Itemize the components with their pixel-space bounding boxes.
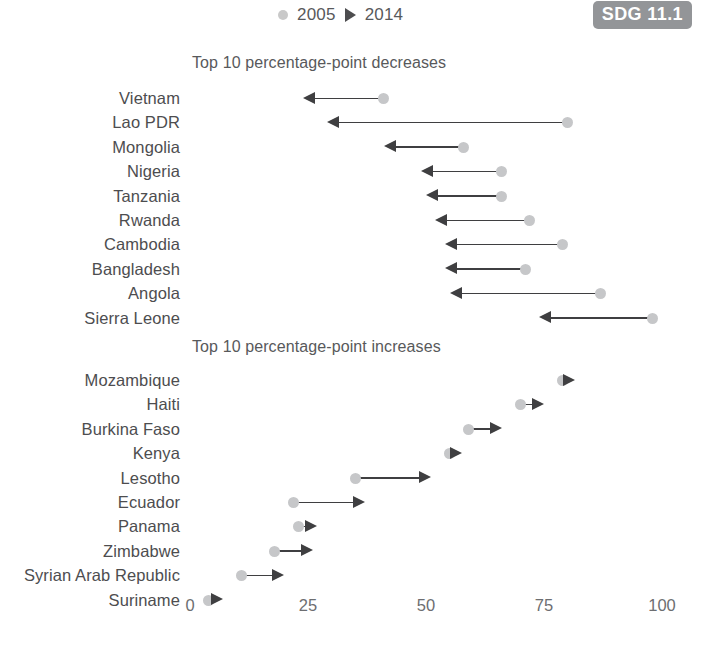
row-track bbox=[0, 466, 701, 490]
row-track bbox=[0, 159, 701, 183]
arrow-shaft bbox=[551, 317, 652, 319]
plot-decreases: VietnamLao PDRMongoliaNigeriaTanzaniaRwa… bbox=[0, 86, 701, 310]
marker-2005 bbox=[269, 546, 280, 557]
arrowhead-2014 bbox=[445, 238, 457, 250]
arrow-shaft bbox=[447, 220, 529, 222]
chart-row: Mozambique bbox=[0, 368, 701, 392]
x-axis: 0255075100 bbox=[0, 596, 701, 626]
legend-item-2014: 2014 bbox=[345, 5, 404, 25]
row-track bbox=[0, 441, 701, 465]
triangle-right-icon bbox=[345, 8, 356, 22]
arrow-shaft bbox=[294, 502, 353, 504]
panel-title-increases: Top 10 percentage-point increases bbox=[192, 338, 441, 356]
chart-row: Nigeria bbox=[0, 159, 701, 183]
arrow-shaft bbox=[462, 293, 601, 295]
arrow-shaft bbox=[433, 171, 501, 173]
marker-2005 bbox=[378, 93, 389, 104]
arrowhead-2014 bbox=[421, 165, 433, 177]
legend-item-2005: 2005 bbox=[278, 5, 336, 25]
row-track bbox=[0, 184, 701, 208]
chart-row: Angola bbox=[0, 281, 701, 305]
arrow-shaft bbox=[396, 146, 464, 148]
marker-2005 bbox=[557, 239, 568, 250]
chart-legend: 2005 2014 bbox=[278, 2, 403, 28]
chart-row: Sierra Leone bbox=[0, 306, 701, 330]
marker-2005 bbox=[647, 313, 658, 324]
row-track bbox=[0, 86, 701, 110]
marker-2005 bbox=[496, 166, 507, 177]
marker-2005 bbox=[350, 473, 361, 484]
marker-2005 bbox=[496, 191, 507, 202]
chart-row: Rwanda bbox=[0, 208, 701, 232]
arrowhead-2014 bbox=[450, 287, 462, 299]
marker-2005 bbox=[463, 424, 474, 435]
row-track bbox=[0, 281, 701, 305]
marker-2005 bbox=[595, 288, 606, 299]
arrow-shaft bbox=[457, 244, 563, 246]
arrow-shaft bbox=[438, 195, 502, 197]
chart-row: Lesotho bbox=[0, 466, 701, 490]
row-track bbox=[0, 490, 701, 514]
row-track bbox=[0, 392, 701, 416]
chart-row: Syrian Arab Republic bbox=[0, 563, 701, 587]
arrowhead-2014 bbox=[450, 447, 462, 459]
arrowhead-2014 bbox=[303, 92, 315, 104]
arrowhead-2014 bbox=[353, 496, 365, 508]
chart-row: Lao PDR bbox=[0, 110, 701, 134]
row-track bbox=[0, 563, 701, 587]
arrowhead-2014 bbox=[445, 262, 457, 274]
chart-row: Panama bbox=[0, 514, 701, 538]
row-track bbox=[0, 514, 701, 538]
chart-row: Ecuador bbox=[0, 490, 701, 514]
marker-2005 bbox=[520, 264, 531, 275]
row-track bbox=[0, 110, 701, 134]
row-track bbox=[0, 368, 701, 392]
arrowhead-2014 bbox=[490, 422, 502, 434]
arrowhead-2014 bbox=[539, 311, 551, 323]
arrowhead-2014 bbox=[532, 398, 544, 410]
row-track bbox=[0, 135, 701, 159]
x-tick-label: 50 bbox=[417, 596, 435, 615]
arrowhead-2014 bbox=[426, 189, 438, 201]
arrowhead-2014 bbox=[435, 214, 447, 226]
x-tick-label: 75 bbox=[535, 596, 553, 615]
plot-increases: MozambiqueHaitiBurkina FasoKenyaLesothoE… bbox=[0, 368, 701, 586]
legend-label-2014: 2014 bbox=[365, 5, 404, 25]
x-tick-label: 25 bbox=[299, 596, 317, 615]
chart-row: Vietnam bbox=[0, 86, 701, 110]
marker-2005 bbox=[288, 497, 299, 508]
chart-row: Mongolia bbox=[0, 135, 701, 159]
row-track bbox=[0, 232, 701, 256]
x-tick-label: 0 bbox=[185, 596, 194, 615]
marker-2005 bbox=[293, 521, 304, 532]
arrowhead-2014 bbox=[305, 520, 317, 532]
marker-2005 bbox=[524, 215, 535, 226]
chart-row: Burkina Faso bbox=[0, 417, 701, 441]
chart-row: Haiti bbox=[0, 392, 701, 416]
arrow-shaft bbox=[457, 268, 525, 270]
row-track bbox=[0, 417, 701, 441]
marker-2005 bbox=[515, 399, 526, 410]
row-track bbox=[0, 208, 701, 232]
arrow-shaft bbox=[339, 122, 568, 124]
arrowhead-2014 bbox=[384, 140, 396, 152]
chart-row: Kenya bbox=[0, 441, 701, 465]
chart-row: Cambodia bbox=[0, 232, 701, 256]
arrowhead-2014 bbox=[419, 471, 431, 483]
arrowhead-2014 bbox=[272, 569, 284, 581]
row-track bbox=[0, 306, 701, 330]
panel-title-decreases: Top 10 percentage-point decreases bbox=[192, 54, 446, 72]
chart-row: Tanzania bbox=[0, 184, 701, 208]
arrow-shaft bbox=[315, 98, 383, 100]
arrowhead-2014 bbox=[563, 374, 575, 386]
row-track bbox=[0, 257, 701, 281]
circle-icon bbox=[278, 10, 288, 20]
marker-2005 bbox=[562, 117, 573, 128]
marker-2005 bbox=[236, 570, 247, 581]
x-tick-label: 100 bbox=[648, 596, 676, 615]
marker-2005 bbox=[458, 142, 469, 153]
row-track bbox=[0, 539, 701, 563]
chart-row: Bangladesh bbox=[0, 257, 701, 281]
sdg-badge: SDG 11.1 bbox=[593, 1, 692, 29]
chart-row: Zimbabwe bbox=[0, 539, 701, 563]
